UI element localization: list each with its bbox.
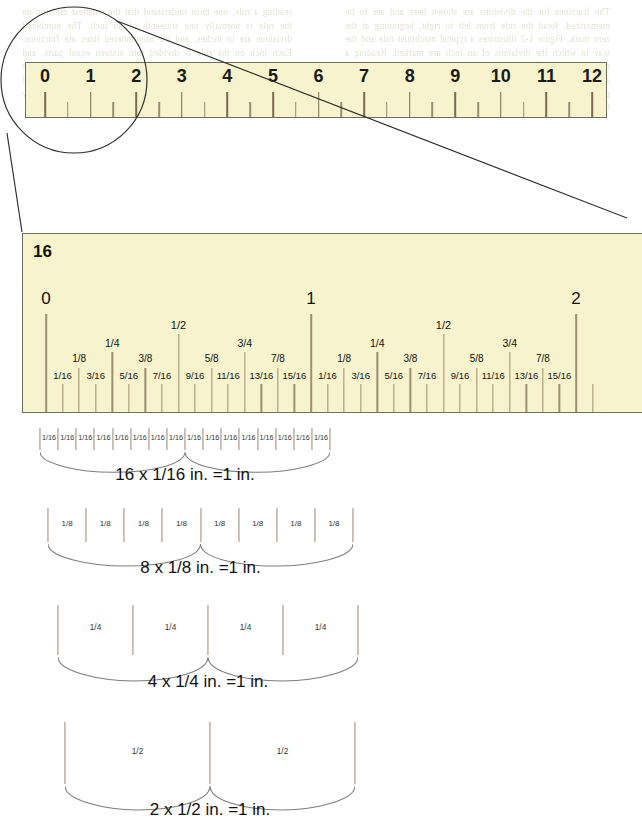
ruler-inch-label: 12 <box>582 66 602 87</box>
ruler-inch-tick <box>500 92 502 117</box>
sixteenths-row-segment-label: 1/16 <box>60 433 74 442</box>
sixteenths-row-tick <box>130 428 131 450</box>
big-ruler-eighth-tick <box>542 368 543 412</box>
big-ruler-sixteenth-tick <box>194 384 195 412</box>
sixteenths-row-segment-label: 1/16 <box>241 433 255 442</box>
big-ruler-sixteenth-tick <box>261 384 262 412</box>
big-ruler-sixteenth-label: 15/16 <box>283 370 307 381</box>
enlarged-two-inch-ruler: 16 0121/161/83/161/45/163/87/161/29/165/… <box>22 233 642 413</box>
big-ruler-half-tick <box>443 334 444 412</box>
big-ruler-quarter-tick <box>377 352 378 412</box>
sixteenths-row-tick <box>293 428 294 450</box>
ruler-inch-tick <box>90 92 92 117</box>
ruler-half-inch-tick <box>477 102 479 117</box>
big-ruler-sixteenth-tick <box>559 384 560 412</box>
big-ruler-eighth-tick <box>343 368 344 412</box>
big-ruler-sixteenth-tick <box>393 384 394 412</box>
quarters-row-segment-label: 1/4 <box>315 623 326 632</box>
big-ruler-sixteenth-tick <box>426 384 427 412</box>
ruler-inch-label: 4 <box>222 66 232 87</box>
big-ruler-eighth-label: 5/8 <box>470 353 484 364</box>
halves-row-segment-label: 1/2 <box>277 746 289 756</box>
big-ruler-quarter-label: 3/4 <box>237 337 252 349</box>
ruler-half-inch-tick <box>568 102 570 117</box>
ruler-half-inch-tick <box>523 102 525 117</box>
eighths-row-caption: 8 x 1/8 in. =1 in. <box>140 558 261 578</box>
sixteenths-row-tick <box>203 428 204 450</box>
ruler-half-inch-tick <box>386 102 388 117</box>
eighths-row-segment-label: 1/8 <box>290 519 301 528</box>
eighths-row-segment-label: 1/8 <box>328 519 339 528</box>
big-ruler-inch-tick <box>310 314 312 412</box>
quarters-row-tick <box>57 605 58 655</box>
ruler-inch-label: 10 <box>491 66 511 87</box>
quarters-row-strip: 1/41/41/41/4 <box>58 605 358 655</box>
big-ruler-sixteenth-tick <box>459 384 460 412</box>
eighths-row-strip: 1/81/81/81/81/81/81/81/8 <box>48 508 353 542</box>
eighths-row-tick <box>314 508 315 542</box>
big-ruler-eighth-tick <box>211 368 212 412</box>
big-ruler-sixteenth-tick <box>526 384 527 412</box>
big-ruler-sixteenth-tick <box>128 384 129 412</box>
big-ruler-quarter-label: 1/4 <box>370 337 385 349</box>
eighths-row-segment-label: 1/8 <box>252 519 263 528</box>
big-ruler-sixteenth-label: 11/16 <box>482 370 505 381</box>
sixteenths-row-tick <box>166 428 167 450</box>
big-ruler-quarter-label: 1/4 <box>105 337 120 349</box>
sixteenths-row-strip: 1/161/161/161/161/161/161/161/161/161/16… <box>40 428 330 450</box>
ruler-inch-tick <box>44 92 46 117</box>
quarters-row-tick <box>282 605 283 655</box>
big-ruler-inch-tick <box>575 314 577 412</box>
big-ruler-eighth-label: 3/8 <box>403 353 417 364</box>
quarters-row-segment-label: 1/4 <box>90 623 101 632</box>
big-ruler-sixteenth-tick <box>360 384 361 412</box>
big-ruler-sixteenth-tick <box>161 384 162 412</box>
sixteenths-row-segment-label: 1/16 <box>205 433 219 442</box>
big-ruler-sixteenth-label: 1/16 <box>318 370 337 381</box>
halves-row-tick <box>209 722 210 784</box>
sixteenths-row-tick <box>94 428 95 450</box>
sixteenths-row-segment-label: 1/16 <box>133 433 147 442</box>
halves-row-segment-label: 1/2 <box>132 746 144 756</box>
eighths-row-segment-label: 1/8 <box>62 519 73 528</box>
big-ruler-half-label: 1/2 <box>436 319 451 331</box>
ruler-inch-tick <box>363 92 365 117</box>
halves-row-tick <box>354 722 355 784</box>
sixteenths-row-segment-label: 1/16 <box>223 433 237 442</box>
scale-denominator-label: 16 <box>33 242 52 262</box>
ruler-inch-tick <box>227 92 229 117</box>
quarters-row-tick <box>132 605 133 655</box>
big-ruler-sixteenth-label: 5/16 <box>120 370 139 381</box>
ruler-inch-tick <box>454 92 456 117</box>
ruler-half-inch-tick <box>249 102 251 117</box>
big-ruler-eighth-label: 5/8 <box>205 353 219 364</box>
big-ruler-quarter-tick <box>244 352 245 412</box>
big-ruler-half-label: 1/2 <box>171 319 186 331</box>
sixteenths-row-tick <box>148 428 149 450</box>
sixteenths-row-tick <box>239 428 240 450</box>
big-ruler-sixteenth-label: 7/16 <box>153 370 172 381</box>
big-ruler-sixteenth-label: 13/16 <box>249 370 273 381</box>
ruler-inch-tick <box>181 92 183 117</box>
eighths-row-segment-label: 1/8 <box>100 519 111 528</box>
ruler-inch-label: 8 <box>405 66 415 87</box>
big-ruler-quarter-tick <box>112 352 113 412</box>
sixteenths-row-caption: 16 x 1/16 in. =1 in. <box>115 465 254 485</box>
eighths-row-tick <box>352 508 353 542</box>
ruler-inch-label: 7 <box>359 66 369 87</box>
twelve-inch-ruler: 0123456789101112 <box>25 62 607 118</box>
big-ruler-sixteenth-label: 9/16 <box>186 370 205 381</box>
eighths-row-tick <box>238 508 239 542</box>
big-ruler-sixteenth-tick <box>228 384 229 412</box>
big-ruler-sixteenth-tick <box>327 384 328 412</box>
sixteenths-row-segment-label: 1/16 <box>296 433 310 442</box>
big-ruler-eighth-tick <box>277 368 278 412</box>
sixteenths-row-segment-label: 1/16 <box>42 433 56 442</box>
ruler-half-inch-tick <box>204 102 206 117</box>
big-ruler-sixteenth-tick <box>95 384 96 412</box>
big-ruler-eighth-label: 1/8 <box>72 353 86 364</box>
big-ruler-sixteenth-label: 9/16 <box>451 370 470 381</box>
big-ruler-sixteenth-tick <box>592 384 593 412</box>
sixteenths-row-segment-label: 1/16 <box>151 433 165 442</box>
sixteenths-row-segment-label: 1/16 <box>96 433 110 442</box>
